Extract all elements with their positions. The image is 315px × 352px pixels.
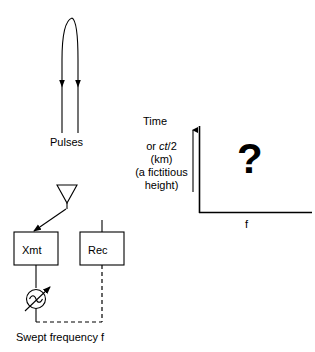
pulse-arc-left-limb — [62, 18, 72, 133]
rec-box-label: Rec — [88, 244, 108, 257]
pulses-arc-group — [59, 18, 81, 133]
antenna-horn-group — [34, 185, 77, 231]
antenna-triangle-icon — [57, 185, 77, 203]
oscillator-variable-arrow-icon — [25, 287, 50, 311]
variable-oscillator-group — [25, 287, 50, 322]
pulse-arrow-down-left — [59, 80, 65, 88]
pulses-label: Pulses — [50, 136, 83, 149]
figure-canvas: Pulses Xmt Rec Swept frequency f Time or… — [0, 0, 315, 352]
y-axis-detail-ct: or ct/2 — [133, 140, 190, 153]
y-axis-detail-italic-ct: ct — [159, 140, 168, 152]
y-axis-detail-block: or ct/2 (km) (a fictitious height) — [133, 140, 190, 192]
y-axis-detail-prefix: or — [146, 140, 159, 152]
y-axis-detail-km: (km) — [133, 153, 190, 166]
rec-box-group — [80, 220, 124, 322]
xmt-box-group — [14, 232, 58, 288]
y-axis-detail-height: height) — [133, 179, 190, 192]
y-axis-detail-fictitious: (a fictitious — [133, 166, 190, 179]
question-mark-annotation: ? — [237, 138, 263, 180]
y-axis-title: Time — [143, 115, 167, 128]
pulse-arrow-down-right — [75, 80, 81, 88]
x-axis-title: f — [245, 218, 248, 231]
swept-frequency-label: Swept frequency f — [16, 331, 104, 344]
antenna-to-xmt-arrow — [34, 209, 66, 231]
y-axis-detail-suffix: /2 — [168, 140, 177, 152]
pulse-arc-right-limb — [72, 18, 78, 133]
xmt-box-label: Xmt — [22, 244, 42, 257]
